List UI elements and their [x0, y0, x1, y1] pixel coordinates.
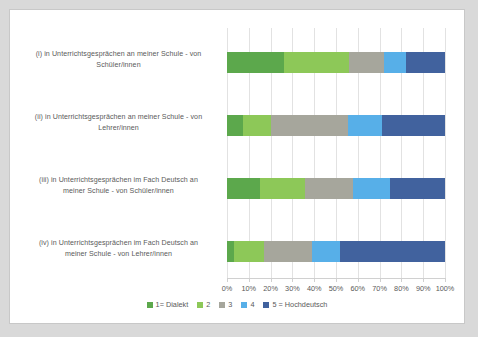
category-label-line: (iii) in Unterrichtsgesprächen im Fach D…: [16, 175, 221, 186]
x-axis-tick: [336, 278, 337, 282]
x-axis-tick-label: 100%: [432, 283, 458, 294]
legend-swatch-icon: [241, 302, 247, 308]
bar-segment: [243, 115, 270, 136]
legend-swatch-icon: [219, 302, 225, 308]
category-label-line: Lehrer/innen: [16, 123, 221, 134]
x-axis-tick: [423, 278, 424, 282]
category-label-line: meiner Schule - von Lehrer/innen: [16, 249, 221, 260]
bar-segment: [234, 241, 265, 262]
chart-legend: 1= Dialekt2345 = Hochdeutsch: [10, 300, 464, 310]
chart-panel: (i) in Unterrichtsgesprächen an meiner S…: [9, 9, 465, 324]
x-axis-ticks: [227, 278, 445, 282]
bar-segment: [349, 52, 384, 73]
bar-row: [227, 241, 445, 262]
bar-segment: [227, 178, 260, 199]
bar-segment: [340, 241, 445, 262]
legend-swatch-icon: [197, 302, 203, 308]
bar-segment: [264, 241, 312, 262]
category-label-line: (iv) in Unterrichtsgesprächen im Fach De…: [16, 238, 221, 249]
category-label: (iii) in Unterrichtsgesprächen im Fach D…: [16, 175, 221, 196]
bar-segment: [390, 178, 445, 199]
bar-segment: [305, 178, 353, 199]
bar-row: [227, 52, 445, 73]
category-label-line: meiner Schule - von Schüler/innen: [16, 186, 221, 197]
bar-segment: [312, 241, 340, 262]
legend-label: 4: [250, 300, 254, 310]
category-label: (iv) in Unterrichtsgesprächen im Fach De…: [16, 238, 221, 259]
bar-segment: [353, 178, 390, 199]
legend-label: 5 = Hochdeutsch: [272, 300, 327, 310]
legend-swatch-icon: [263, 302, 269, 308]
bar-segment: [406, 52, 445, 73]
bar-row: [227, 178, 445, 199]
x-axis-tick: [445, 278, 446, 282]
bar-segment: [382, 115, 445, 136]
legend-item[interactable]: 1= Dialekt: [147, 300, 189, 310]
bar-segment: [227, 115, 243, 136]
x-axis-tick: [314, 278, 315, 282]
category-label: (i) in Unterrichtsgesprächen an meiner S…: [16, 49, 221, 70]
x-axis-tick: [292, 278, 293, 282]
category-label-line: Schüler/innen: [16, 60, 221, 71]
bar-row: [227, 115, 445, 136]
category-label: (ii) in Unterrichtsgesprächen an meiner …: [16, 112, 221, 133]
x-axis-tick: [380, 278, 381, 282]
legend-label: 3: [228, 300, 232, 310]
bar-segment: [271, 115, 348, 136]
bar-segment: [260, 178, 306, 199]
category-axis-labels: (i) in Unterrichtsgesprächen an meiner S…: [16, 28, 221, 256]
bar-segment: [384, 52, 406, 73]
category-label-line: (ii) in Unterrichtsgesprächen an meiner …: [16, 112, 221, 123]
bar-segment: [227, 52, 284, 73]
x-axis-tick: [227, 278, 228, 282]
gridline: [445, 28, 446, 278]
legend-label: 2: [206, 300, 210, 310]
x-axis-tick-labels: 0%10%20%30%40%50%60%70%80%90%100%: [227, 283, 445, 295]
legend-item[interactable]: 2: [197, 300, 210, 310]
x-axis-tick: [271, 278, 272, 282]
legend-item[interactable]: 3: [219, 300, 232, 310]
legend-item[interactable]: 4: [241, 300, 254, 310]
bar-segment: [284, 52, 349, 73]
bar-segment: [348, 115, 382, 136]
legend-swatch-icon: [147, 302, 153, 308]
legend-label: 1= Dialekt: [156, 300, 189, 310]
plot-area: [227, 28, 445, 278]
x-axis-tick: [401, 278, 402, 282]
chart-plot-wrapper: (i) in Unterrichtsgesprächen an meiner S…: [10, 10, 464, 323]
legend-item[interactable]: 5 = Hochdeutsch: [263, 300, 327, 310]
x-axis-tick: [249, 278, 250, 282]
x-axis-tick: [358, 278, 359, 282]
category-label-line: (i) in Unterrichtsgesprächen an meiner S…: [16, 49, 221, 60]
bar-series-container: [227, 28, 445, 278]
